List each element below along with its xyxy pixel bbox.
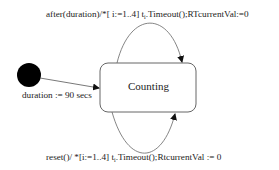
bottom-transition-label-pre: reset()/ *[i:=1..4] t	[46, 152, 114, 162]
top-transition-label: after(duration)/*[ i:=1..4] ti.Timeout()…	[46, 9, 249, 23]
self-transition-top-arrow	[117, 23, 182, 63]
initial-transition-arrow	[40, 78, 99, 88]
bottom-transition-label-post: .Timeout();RtcurrentVal := 0	[116, 152, 222, 162]
bottom-transition-label: reset()/ *[i:=1..4] ti.Timeout();Rtcurre…	[46, 152, 221, 166]
top-transition-label-pre: after(duration)/*[ i:=1..4] t	[46, 9, 144, 19]
top-transition-label-post: .Timeout();RTcurrentVal:=0	[146, 9, 249, 19]
self-transition-bottom-arrow	[112, 112, 175, 153]
state-counting-label: Counting	[128, 80, 169, 92]
initial-transition-label: duration := 90 secs	[22, 90, 92, 101]
initial-node	[17, 63, 41, 87]
